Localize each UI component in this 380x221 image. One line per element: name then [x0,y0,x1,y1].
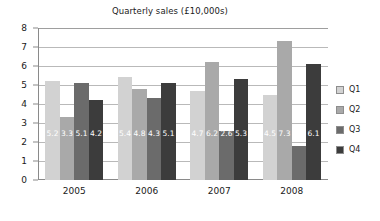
bar: 4.2 [89,100,104,180]
bar: 4.8 [132,89,147,180]
bar: 5.2 [45,81,60,180]
bar: 4.3 [147,98,162,180]
bar-value-label: 5.2 [47,130,59,138]
y-tick-label: 4 [21,99,27,109]
bar-value-label: 5.3 [235,130,247,138]
legend-swatch-icon [336,86,344,94]
bar: 3.3 [60,117,75,180]
legend-item-q2[interactable]: Q2 [336,100,380,120]
bar: 2.6 [219,131,234,180]
y-tick-label: 3 [21,118,27,128]
legend-item-q1[interactable]: Q1 [336,80,380,100]
y-tick-label: 6 [21,61,27,71]
legend-label: Q2 [349,106,360,114]
legend-label: Q4 [349,146,360,154]
legend-item-q3[interactable]: Q3 [336,120,380,140]
bar-value-label: 5.1 [163,130,175,138]
bar: 5.3 [234,79,249,180]
y-tick-label: 7 [21,42,27,52]
legend-swatch-icon [336,106,344,114]
chart-title: Quarterly sales (£10,000s) [0,6,340,16]
bar-value-label: 6.1 [308,130,320,138]
bar: 6.2 [205,62,220,180]
bar-value-label: 4.2 [90,130,102,138]
bar-value-label: 4.5 [264,130,276,138]
x-tick-label: 2005 [63,186,86,196]
legend: Q1Q2Q3Q4 [336,80,380,160]
bar: 5.4 [118,77,133,180]
legend-label: Q1 [349,86,360,94]
legend-swatch-icon [336,146,344,154]
bar-value-label: 4.8 [134,130,146,138]
bar-value-label: 5.4 [119,130,131,138]
y-tick-label: 1 [21,156,27,166]
bar: 1.8 [292,146,307,180]
y-tick-label: 8 [21,23,27,33]
legend-item-q4[interactable]: Q4 [336,140,380,160]
y-tick-label: 0 [21,175,27,185]
bar-value-label: 4.3 [148,130,160,138]
bar-value-label: 4.7 [192,130,204,138]
chart-screenshot: Quarterly sales (£10,000s) 012345678 5.2… [0,0,380,221]
bar-value-label: 3.3 [61,130,73,138]
y-axis: 012345678 [0,28,34,180]
bar: 5.1 [74,83,89,180]
y-tick-label: 5 [21,80,27,90]
bar: 5.1 [161,83,176,180]
bar: 4.7 [190,91,205,180]
bars-layer: 5.23.35.14.25.44.84.35.14.76.22.65.34.57… [38,28,328,180]
x-tick-label: 2007 [208,186,231,196]
x-axis: 2005200620072008 [38,186,328,204]
x-tick-label: 2006 [135,186,158,196]
legend-swatch-icon [336,126,344,134]
legend-label: Q3 [349,126,360,134]
bar: 6.1 [306,64,321,180]
y-tick-label: 2 [21,137,27,147]
bar: 4.5 [263,95,278,181]
bar: 7.3 [277,41,292,180]
bar-value-label: 5.1 [76,130,88,138]
bar-value-label: 7.3 [279,130,291,138]
bar-value-label: 1.8 [293,130,305,138]
x-tick-label: 2008 [280,186,303,196]
bar-value-label: 6.2 [206,130,218,138]
bar-value-label: 2.6 [221,130,233,138]
